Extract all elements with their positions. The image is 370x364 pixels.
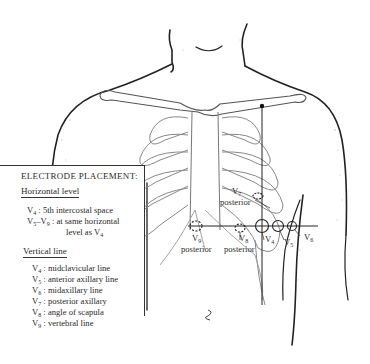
umbilicus: [205, 310, 211, 320]
label-v8: V8: [239, 233, 248, 244]
sternum: [190, 112, 220, 230]
lead-range: –V: [36, 216, 47, 226]
clavicle-point-marker: [260, 104, 264, 108]
label-v7: V7: [232, 186, 241, 197]
scapula-outlines: [160, 210, 263, 300]
legend-line-level-as-v4: level as V4: [66, 227, 103, 240]
vertical-line-heading: Vertical line: [23, 246, 67, 258]
label-v6: V6: [304, 232, 313, 243]
label-v7-posterior: posterior: [220, 197, 251, 207]
label-v5: V5: [284, 237, 293, 248]
lead-description: : at same horizontal: [50, 216, 120, 226]
label-v9-posterior: posterior: [181, 244, 212, 254]
lead-description: : angle of scapula: [41, 307, 104, 317]
label-v9: V9: [192, 233, 201, 244]
lead-description: : 5th intercostal space: [36, 205, 113, 215]
lead-description: level as V: [66, 227, 100, 237]
ribs: [127, 117, 283, 305]
lead-description: : midclavicular line: [41, 263, 110, 273]
lead-description: : midaxillary line: [41, 285, 102, 295]
label-v4: V4: [265, 234, 274, 245]
lead-description: : anterior axillary line: [41, 274, 118, 284]
electrode-v8-posterior: [235, 224, 245, 232]
lead-subscript: 4: [271, 239, 274, 245]
horizontal-level-heading: Horizontal level: [21, 186, 79, 198]
legend-line-v9-vertical: V9 : vertebral line: [32, 318, 93, 331]
label-v8-posterior: posterior: [224, 244, 255, 254]
lead-subscript: 5: [290, 242, 293, 248]
lead-subscript: 6: [310, 237, 313, 243]
clavicles: [100, 91, 306, 116]
legend-title: ELECTRODE PLACEMENT:: [21, 171, 138, 181]
lead-subscript: 4: [100, 232, 103, 238]
lead-description: : posterior axillary: [41, 296, 107, 306]
lead-description: : vertebral line: [41, 318, 93, 328]
